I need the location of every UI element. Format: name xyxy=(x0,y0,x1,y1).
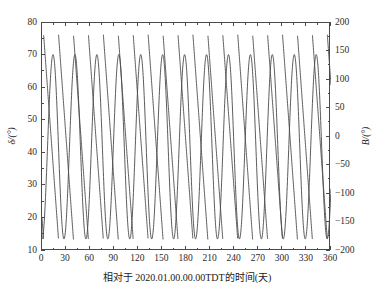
y-right-tick-minor xyxy=(328,178,331,179)
x-tick-minor xyxy=(317,248,318,251)
y-right-tick-label: 100 xyxy=(335,74,365,84)
y-axis-left-title: δ/(°) xyxy=(7,127,17,144)
y-left-tick-label: 80 xyxy=(13,17,37,27)
x-tick-major-top xyxy=(41,22,42,26)
x-tick-minor-top xyxy=(317,22,318,25)
x-tick-major-top xyxy=(209,22,210,26)
y-left-tick-minor xyxy=(41,233,44,234)
x-tick-major xyxy=(161,246,162,250)
y-left-tick-label: 60 xyxy=(13,82,37,92)
x-tick-major-top xyxy=(65,22,66,26)
y-right-tick-major xyxy=(326,50,330,51)
y-left-tick-label: 70 xyxy=(13,49,37,59)
y-right-tick-label: 200 xyxy=(335,17,365,27)
x-tick-major xyxy=(137,246,138,250)
x-tick-major-top xyxy=(161,22,162,26)
x-tick-major-top xyxy=(257,22,258,26)
x-tick-minor-top xyxy=(221,22,222,25)
x-tick-major xyxy=(305,246,306,250)
y-right-tick-minor xyxy=(328,150,331,151)
y-right-tick-minor xyxy=(328,235,331,236)
y-left-tick-major xyxy=(41,184,45,185)
y-right-tick-minor xyxy=(328,36,331,37)
y-right-tick-major xyxy=(326,22,330,23)
y-left-tick-label: 20 xyxy=(13,212,37,222)
x-tick-major xyxy=(257,246,258,250)
y-right-tick-label: −100 xyxy=(335,188,365,198)
y-left-tick-label: 10 xyxy=(13,245,37,255)
y-right-tick-major xyxy=(326,193,330,194)
x-tick-major-top xyxy=(113,22,114,26)
y-right-tick-label: −200 xyxy=(335,245,365,255)
x-tick-major xyxy=(281,246,282,250)
y-left-tick-label: 50 xyxy=(13,114,37,124)
x-tick-minor-top xyxy=(269,22,270,25)
x-tick-minor xyxy=(101,248,102,251)
x-tick-minor-top xyxy=(149,22,150,25)
x-tick-minor-top xyxy=(53,22,54,25)
y-left-tick-major xyxy=(41,22,45,23)
y-right-tick-major xyxy=(326,79,330,80)
x-tick-major-top xyxy=(185,22,186,26)
x-tick-label: 360 xyxy=(314,253,346,263)
y-left-tick-major xyxy=(41,250,45,251)
y-right-tick-major xyxy=(326,136,330,137)
x-tick-major-top xyxy=(137,22,138,26)
x-tick-minor-top xyxy=(77,22,78,25)
x-tick-minor-top xyxy=(125,22,126,25)
y-left-tick-label: 40 xyxy=(13,147,37,157)
y-right-tick-minor xyxy=(328,121,331,122)
y-left-tick-minor xyxy=(41,38,44,39)
x-tick-minor xyxy=(197,248,198,251)
x-tick-minor xyxy=(293,248,294,251)
x-tick-major xyxy=(65,246,66,250)
x-tick-minor-top xyxy=(173,22,174,25)
y-right-tick-minor xyxy=(328,207,331,208)
y-left-tick-major xyxy=(41,217,45,218)
y-right-tick-minor xyxy=(328,93,331,94)
x-tick-minor-top xyxy=(293,22,294,25)
y-right-tick-major xyxy=(326,107,330,108)
y-left-tick-minor xyxy=(41,201,44,202)
x-tick-minor xyxy=(221,248,222,251)
x-tick-major xyxy=(89,246,90,250)
x-tick-major-top xyxy=(330,22,331,26)
y-left-tick-major xyxy=(41,152,45,153)
y-axis-right-title: B/(°) xyxy=(361,127,371,146)
y-left-tick-major xyxy=(41,54,45,55)
y-axis-right-symbol: B/(°) xyxy=(361,127,371,146)
y-axis-left-symbol: δ/(°) xyxy=(7,127,17,144)
x-tick-major xyxy=(113,246,114,250)
y-right-tick-label: 150 xyxy=(335,45,365,55)
x-tick-minor xyxy=(77,248,78,251)
y-left-tick-minor xyxy=(41,103,44,104)
plot-area xyxy=(41,22,330,250)
x-tick-major-top xyxy=(305,22,306,26)
y-left-tick-minor xyxy=(41,168,44,169)
x-tick-minor xyxy=(53,248,54,251)
figure-canvas: 0306090120150180210240270300330360102030… xyxy=(0,0,374,294)
y-left-tick-minor xyxy=(41,70,44,71)
y-right-tick-major xyxy=(326,250,330,251)
x-tick-major-top xyxy=(281,22,282,26)
y-right-tick-label: −150 xyxy=(335,216,365,226)
y-right-tick-label: −50 xyxy=(335,159,365,169)
x-tick-major-top xyxy=(233,22,234,26)
y-right-tick-major xyxy=(326,221,330,222)
x-tick-minor xyxy=(149,248,150,251)
x-tick-major xyxy=(209,246,210,250)
x-tick-major xyxy=(185,246,186,250)
x-tick-minor xyxy=(269,248,270,251)
y-right-tick-minor xyxy=(328,64,331,65)
x-tick-minor xyxy=(245,248,246,251)
x-tick-major-top xyxy=(89,22,90,26)
x-axis-title: 相对于 2020.01.00.00.00TDT的时间(天) xyxy=(0,269,374,284)
y-left-tick-major xyxy=(41,87,45,88)
x-tick-minor-top xyxy=(197,22,198,25)
y-right-tick-major xyxy=(326,164,330,165)
x-tick-minor xyxy=(125,248,126,251)
y-left-tick-major xyxy=(41,119,45,120)
x-tick-minor xyxy=(173,248,174,251)
y-right-tick-label: 50 xyxy=(335,102,365,112)
chart-curves xyxy=(42,23,331,251)
